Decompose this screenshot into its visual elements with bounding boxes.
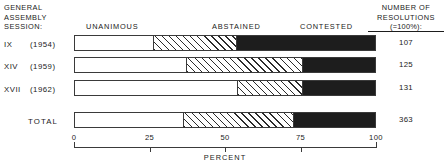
x-axis-tick-label: 100 — [369, 133, 383, 142]
bar-segment-unanimous — [75, 36, 153, 50]
bar-segment-contested — [294, 113, 375, 127]
session-caption-line-3: SESSION: — [4, 22, 47, 32]
bar-row-session-xvii — [74, 80, 376, 96]
bar-segment-contested — [303, 81, 375, 95]
x-axis-tick — [301, 147, 302, 152]
resolution-count-session-ix: 107 — [368, 38, 444, 47]
bar-segment-unanimous — [75, 113, 183, 127]
row-label-session-xvii: XVII(1962) — [4, 85, 56, 94]
bar-row-session-xiv — [74, 57, 376, 73]
x-axis-tick-label: 25 — [145, 133, 154, 142]
bar-row-total — [74, 112, 376, 128]
row-year-0: (1954) — [30, 40, 56, 49]
x-axis-tick — [376, 142, 377, 148]
bar-segment-abstained — [153, 36, 237, 50]
row-roman-2: XVII — [4, 85, 30, 94]
legend-label-unanimous: UNANIMOUS — [86, 22, 138, 31]
x-axis-tick — [225, 147, 226, 152]
x-axis-tick-label: 0 — [72, 133, 77, 142]
x-axis-tick — [150, 147, 151, 152]
legend-label-contested: CONTESTED — [300, 22, 353, 31]
stacked-bar-chart: GENERAL ASSEMBLY SESSION: NUMBER OF RESO… — [0, 0, 444, 164]
row-year-1: (1959) — [30, 62, 56, 71]
bar-segment-abstained — [237, 81, 303, 95]
session-caption-line-2: ASSEMBLY — [4, 13, 47, 23]
row-label-total: TOTAL — [28, 117, 58, 126]
resolutions-header: NUMBER OF RESOLUTIONS (=100%): — [368, 3, 444, 32]
bar-segment-abstained — [186, 58, 303, 72]
row-label-session-xiv: XIV(1959) — [4, 62, 56, 71]
row-roman-0: IX — [4, 40, 30, 49]
x-axis-title: PERCENT — [74, 153, 376, 162]
bar-segment-unanimous — [75, 58, 186, 72]
bar-segment-contested — [237, 36, 375, 50]
bar-segment-contested — [303, 58, 375, 72]
bar-segment-unanimous — [75, 81, 237, 95]
session-caption-line-1: GENERAL — [4, 3, 47, 13]
row-roman-1: XIV — [4, 62, 30, 71]
session-caption: GENERAL ASSEMBLY SESSION: — [4, 3, 47, 32]
x-axis-tick-label: 50 — [220, 133, 229, 142]
x-axis-tick-label: 75 — [296, 133, 305, 142]
resolutions-header-line-1: NUMBER OF — [368, 3, 444, 13]
row-year-2: (1962) — [30, 85, 56, 94]
bar-row-session-ix — [74, 35, 376, 51]
header-rule-divider — [368, 31, 444, 32]
resolution-count-total: 363 — [368, 115, 444, 124]
bar-segment-abstained — [183, 113, 294, 127]
resolution-count-session-xvii: 131 — [368, 83, 444, 92]
row-label-session-ix: IX(1954) — [4, 40, 56, 49]
resolutions-header-line-2: RESOLUTIONS — [368, 13, 444, 23]
legend-label-abstained: ABSTAINED — [212, 22, 261, 31]
resolution-count-session-xiv: 125 — [368, 60, 444, 69]
x-axis-tick — [74, 142, 75, 148]
